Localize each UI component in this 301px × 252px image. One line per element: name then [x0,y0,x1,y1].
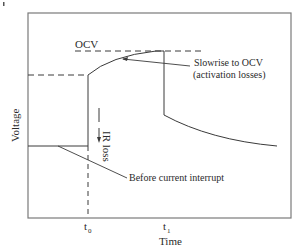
plot-frame [28,13,291,218]
page-corner-mark [3,2,5,6]
ocv-label: OCV [75,38,98,50]
tick-t1: t 1 [163,220,171,235]
ir-loss-label: IR loss [101,131,113,162]
svg-text:0: 0 [88,227,92,235]
svg-text:t: t [84,220,87,232]
svg-text:t: t [163,220,166,232]
slow-rise-label-line2: (activation losses) [193,69,265,81]
decay-curve [164,115,277,146]
interrupt-diagram: OCV Slowrise to OCV (activation losses) … [0,0,301,252]
slow-rise-curve [88,51,156,75]
y-axis-label: Voltage [9,108,21,142]
x-axis-label: Time [159,235,182,247]
before-interrupt-label: Before current interrupt [129,172,224,183]
slow-rise-label-line1: Slowrise to OCV [194,57,264,68]
slow-rise-pointer [123,59,190,66]
svg-text:1: 1 [167,227,171,235]
tick-t0: t 0 [84,220,92,235]
before-interrupt-pointer [58,146,127,178]
ir-loss-arrowhead-icon [97,137,101,143]
